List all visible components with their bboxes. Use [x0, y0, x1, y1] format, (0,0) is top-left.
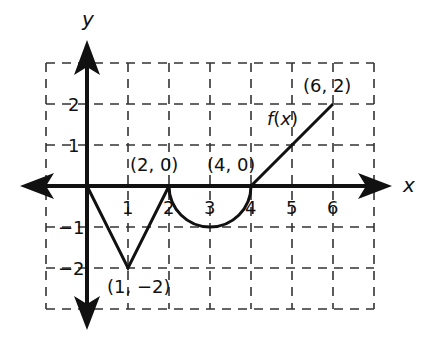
func-label-x: x — [279, 108, 291, 129]
x-tick-4: 4 — [245, 197, 256, 218]
y-axis-label: y — [81, 7, 95, 31]
func-label-open: ( — [273, 108, 280, 129]
x-tick-2: 2 — [163, 197, 174, 218]
y-tick-2: 2 — [68, 94, 79, 115]
point-label-6-2: (6, 2) — [303, 75, 351, 96]
x-tick-6: 6 — [327, 197, 338, 218]
x-axis-label: x — [402, 173, 415, 197]
function-label-fx: f(x) — [267, 108, 298, 129]
y-tick-neg2: −2 — [58, 258, 85, 279]
x-tick-5: 5 — [286, 197, 297, 218]
func-label-close: ) — [291, 108, 298, 129]
function-graph: y x 1 2 3 4 5 6 2 1 −1 −2 (1, −2) (2, 0)… — [0, 0, 434, 350]
point-label-2-0: (2, 0) — [130, 154, 178, 175]
x-tick-1: 1 — [122, 197, 133, 218]
x-tick-3: 3 — [204, 197, 215, 218]
point-label-1-neg2: (1, −2) — [107, 276, 170, 297]
point-label-4-0: (4, 0) — [207, 154, 255, 175]
y-tick-neg1: −1 — [58, 217, 85, 238]
y-tick-1: 1 — [68, 135, 79, 156]
